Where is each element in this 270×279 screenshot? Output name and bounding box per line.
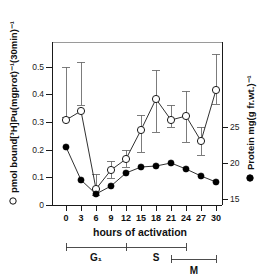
cell-cycle-line-chart: 0.5 0.4 0.3 0.2 0.1 0 25 20 15 — [0, 0, 270, 279]
right-axis-title: Protein mg(g fr.wt.)⁻¹ — [245, 75, 256, 170]
phase-label-s: S — [153, 252, 160, 263]
left-tick-label-3: 0.2 — [32, 145, 44, 155]
x-tick-label-6: 6 — [93, 213, 98, 223]
phase-label-g1: G₁ — [90, 252, 102, 263]
right-tick-label-25: 25 — [230, 122, 240, 132]
x-tick-label-3: 3 — [78, 213, 83, 223]
phase-bar-m: M — [171, 255, 216, 276]
figure-container: 0.5 0.4 0.3 0.2 0.1 0 25 20 15 — [0, 0, 270, 279]
series-line-protein — [66, 147, 216, 194]
x-tick-label-18: 18 — [151, 213, 161, 223]
phase-bar-s: S — [126, 243, 186, 263]
right-tick-label-15: 15 — [230, 194, 240, 204]
phase-bar-g1: G₁ — [66, 243, 126, 263]
x-tick-label-0: 0 — [63, 213, 68, 223]
phase-label-m: M — [190, 265, 198, 276]
x-axis-ticks: 0 3 6 9 12 15 18 21 24 27 30 — [63, 205, 221, 223]
x-tick-label-21: 21 — [166, 213, 176, 223]
left-tick-label-5: 0 — [39, 200, 44, 210]
x-tick-label-30: 30 — [211, 213, 221, 223]
plot-frame — [52, 42, 222, 205]
x-tick-label-15: 15 — [136, 213, 146, 223]
x-tick-label-24: 24 — [181, 213, 191, 223]
x-axis-title: hours of activation — [93, 226, 187, 238]
left-tick-label-2: 0.3 — [32, 117, 44, 127]
right-axis-ticks: 25 20 15 — [222, 122, 240, 204]
left-axis-ticks: 0.5 0.4 0.3 0.2 0.1 0 — [32, 62, 52, 210]
x-tick-label-12: 12 — [121, 213, 131, 223]
left-axis-title: pmol bound[³H]Pu(mgprot)⁻¹(30min)⁻¹ — [8, 21, 19, 193]
x-tick-label-27: 27 — [196, 213, 206, 223]
filled-circle-legend-icon — [247, 175, 253, 181]
left-tick-label-0: 0.5 — [32, 62, 44, 72]
left-tick-label-4: 0.1 — [32, 172, 44, 182]
right-axis-title-group: Protein mg(g fr.wt.)⁻¹ — [245, 75, 256, 181]
right-tick-label-20: 20 — [230, 158, 240, 168]
open-circle-legend-icon — [10, 198, 16, 204]
left-tick-label-1: 0.4 — [32, 89, 44, 99]
left-axis-title-group: pmol bound[³H]Pu(mgprot)⁻¹(30min)⁻¹ — [8, 21, 19, 204]
x-tick-label-9: 9 — [108, 213, 113, 223]
